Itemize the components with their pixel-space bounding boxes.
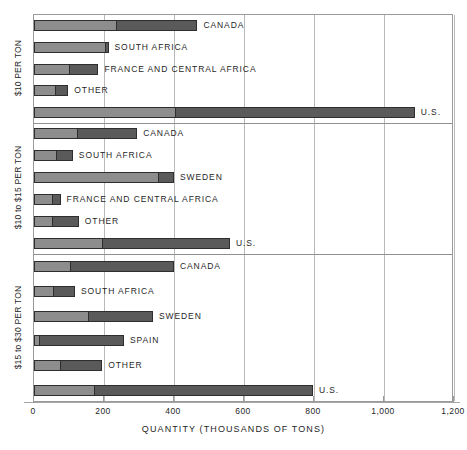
bar-segment-light — [35, 108, 175, 117]
bar-segment-dark — [94, 386, 312, 395]
bar-segment-dark — [69, 65, 97, 74]
tick-0 — [33, 396, 34, 403]
bar-segment-dark — [60, 361, 102, 370]
group-label-2: $10 to $15 PER TON — [13, 128, 23, 247]
bar-label: CANADA — [180, 261, 221, 272]
bar-segment-dark — [102, 239, 230, 248]
bar-segment-light — [35, 195, 52, 204]
tick-400 — [173, 396, 174, 403]
bar-segment-dark — [52, 217, 78, 226]
tick-label-600: 600 — [235, 406, 250, 416]
bar-label: FRANCE AND CENTRAL AFRICA — [104, 64, 256, 75]
panel-divider-2 — [34, 254, 452, 255]
bar-label: SPAIN — [130, 335, 159, 346]
bar-label: U.S. — [319, 385, 339, 396]
tick-1000 — [383, 396, 384, 403]
plot-area: CANADASOUTH AFRICAFRANCE AND CENTRAL AFR… — [33, 14, 453, 402]
bar-segment-dark — [53, 287, 74, 296]
bar — [34, 150, 73, 161]
x-axis-line — [24, 402, 460, 403]
bar-label: FRANCE AND CENTRAL AFRICA — [67, 194, 219, 205]
bar — [34, 20, 197, 31]
bar — [34, 238, 230, 249]
bar — [34, 335, 124, 346]
tick-600 — [243, 396, 244, 403]
bar-label: OTHER — [108, 360, 142, 371]
bar-label: SWEDEN — [180, 172, 223, 183]
tick-1200 — [453, 396, 454, 403]
group-label-3: $15 to $30 PER TON — [13, 259, 23, 396]
bar-segment-dark — [52, 195, 59, 204]
tick-200 — [103, 396, 104, 403]
bar — [34, 194, 61, 205]
bar-segment-light — [35, 217, 52, 226]
bar-label: CANADA — [143, 128, 184, 139]
bar-segment-dark — [105, 43, 108, 52]
tick-label-400: 400 — [165, 406, 180, 416]
bar-label: U.S. — [236, 238, 256, 249]
bar-segment-light — [35, 287, 53, 296]
bar — [34, 360, 102, 371]
bar — [34, 261, 174, 272]
bar-label: SOUTH AFRICA — [79, 150, 153, 161]
bar-segment-dark — [55, 86, 67, 95]
bar-segment-light — [35, 65, 69, 74]
gridline-800 — [314, 15, 315, 401]
bar-label: CANADA — [203, 20, 244, 31]
bar-chart: CANADASOUTH AFRICAFRANCE AND CENTRAL AFR… — [0, 0, 467, 450]
bar-label: SOUTH AFRICA — [81, 286, 155, 297]
bar-segment-dark — [39, 336, 123, 345]
bar — [34, 128, 137, 139]
gridline-1000 — [384, 15, 385, 401]
bar-segment-light — [35, 173, 158, 182]
bar-segment-light — [35, 21, 116, 30]
gridline-1200 — [454, 15, 455, 401]
bar — [34, 286, 75, 297]
bar-segment-dark — [56, 151, 72, 160]
bar-segment-light — [35, 129, 77, 138]
bar-label: OTHER — [74, 85, 108, 96]
x-axis-title: QUANTITY (THOUSANDS OF TONS) — [0, 424, 467, 434]
bar-segment-light — [35, 43, 105, 52]
bar-segment-light — [35, 262, 70, 271]
bar — [34, 85, 68, 96]
bar — [34, 172, 174, 183]
bar — [34, 385, 313, 396]
tick-label-200: 200 — [95, 406, 110, 416]
bar-segment-light — [35, 151, 56, 160]
tick-label-1200: 1,200 — [441, 406, 464, 416]
tick-label-0: 0 — [30, 406, 35, 416]
bar-label: OTHER — [85, 216, 119, 227]
tick-label-800: 800 — [305, 406, 320, 416]
bar-label: U.S. — [421, 107, 441, 118]
bar-segment-dark — [175, 108, 414, 117]
bar-segment-light — [35, 86, 55, 95]
bar-segment-dark — [116, 21, 197, 30]
bar-segment-light — [35, 361, 60, 370]
tick-800 — [313, 396, 314, 403]
bar-segment-dark — [70, 262, 173, 271]
bar-segment-light — [35, 386, 94, 395]
bar-label: SOUTH AFRICA — [115, 42, 189, 53]
bar — [34, 42, 109, 53]
bar-segment-dark — [158, 173, 174, 182]
tick-label-1000: 1,000 — [371, 406, 394, 416]
group-label-1: $10 PER TON — [13, 20, 23, 116]
bar — [34, 311, 153, 322]
bar-segment-dark — [88, 312, 153, 321]
bar-segment-dark — [77, 129, 136, 138]
bar — [34, 107, 415, 118]
bar — [34, 64, 98, 75]
bar — [34, 216, 79, 227]
bar-segment-light — [35, 312, 88, 321]
panel-divider-1 — [34, 123, 452, 124]
bar-label: SWEDEN — [159, 311, 202, 322]
bar-segment-light — [35, 239, 102, 248]
